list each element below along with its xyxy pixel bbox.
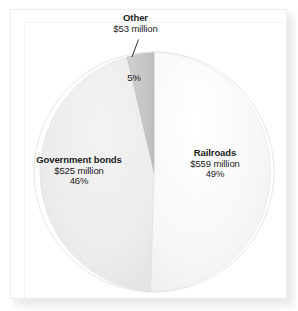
chart-plot-area: Other $53 million 5% Government bonds $5… [0,0,298,311]
label-other-percent: 5% [120,72,148,83]
label-railroads-percent: 49% [163,169,267,180]
label-government-bonds-percent: 46% [15,176,143,187]
label-other-value: $53 million [63,24,208,35]
label-government-bonds: Government bonds $525 million 46% [15,155,143,187]
label-other: Other $53 million [63,13,208,34]
pie-chart-figure: Other $53 million 5% Government bonds $5… [0,0,298,311]
label-railroads: Railroads $559 million 49% [163,148,267,180]
